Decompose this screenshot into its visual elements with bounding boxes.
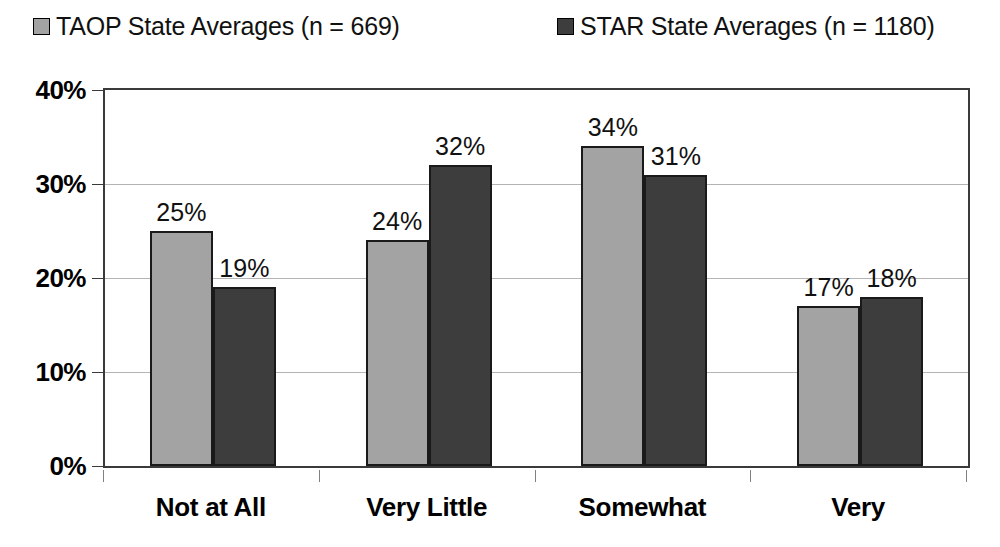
bar-star-very-little [429, 165, 492, 466]
x-tick-mark [535, 470, 536, 482]
bar-value-label: 32% [419, 133, 502, 159]
legend-entry-star: STAR State Averages (n = 1180) [557, 12, 935, 40]
y-tick-label: 10% [35, 354, 86, 390]
bar-taop-very [797, 306, 860, 466]
y-axis: 0%10%20%30%40% [0, 88, 103, 468]
y-tick-label: 40% [35, 72, 86, 108]
bar-value-label: 34% [571, 114, 654, 140]
legend-swatch-taop [33, 18, 50, 35]
bar-taop-somewhat [581, 146, 644, 466]
y-tick-mark [92, 90, 103, 91]
y-tick-label: 30% [35, 166, 86, 202]
legend-label-taop: TAOP State Averages (n = 669) [56, 12, 400, 40]
x-category-label-very: Very [750, 492, 966, 522]
bar-star-not-at-all [213, 287, 276, 466]
legend-entry-taop: TAOP State Averages (n = 669) [33, 12, 400, 40]
y-tick-mark [92, 372, 103, 373]
bar-value-label: 19% [203, 255, 286, 281]
x-category-label-somewhat: Somewhat [535, 492, 751, 522]
legend-label-star: STAR State Averages (n = 1180) [580, 12, 935, 40]
gridline-30 [105, 184, 968, 185]
x-tick-mark [750, 470, 751, 482]
bar-star-somewhat [644, 175, 707, 466]
x-tick-mark [966, 470, 967, 482]
legend-swatch-star [557, 18, 574, 35]
chart-legend: TAOP State Averages (n = 669) STAR State… [0, 10, 1000, 54]
chart-plot-frame: 25%19%24%32%34%31%17%18% [103, 88, 970, 468]
y-tick-mark [92, 278, 103, 279]
x-category-label-very-little: Very Little [319, 492, 535, 522]
x-category-label-not-at-all: Not at All [103, 492, 319, 522]
bar-value-label: 25% [140, 199, 223, 225]
y-tick-mark [92, 466, 103, 467]
x-tick-mark [103, 470, 104, 482]
bar-taop-very-little [366, 240, 429, 466]
bar-value-label: 31% [634, 143, 717, 169]
bar-value-label: 18% [850, 265, 933, 291]
chart-plot-area: 25%19%24%32%34%31%17%18% [105, 90, 968, 466]
x-tick-mark [319, 470, 320, 482]
bar-value-label: 24% [356, 208, 439, 234]
y-tick-label: 0% [49, 448, 86, 484]
x-axis: Not at AllVery LittleSomewhatVery [103, 470, 970, 530]
y-tick-label: 20% [35, 260, 86, 296]
y-tick-mark [92, 184, 103, 185]
bar-star-very [860, 297, 923, 466]
